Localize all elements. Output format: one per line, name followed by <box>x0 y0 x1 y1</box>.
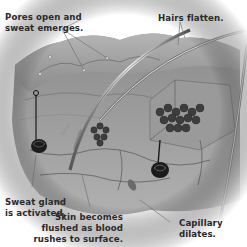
label-line: rushes to surface. <box>33 234 123 245</box>
label-line: Skin becomes <box>33 212 123 223</box>
label-line: Pores open and <box>5 12 83 23</box>
label-skin-flush: Skin becomes flushed as blood rushes to … <box>33 212 123 245</box>
label-line: Sweat gland <box>5 197 66 208</box>
label-pores: Pores open and sweat emerges. <box>5 12 83 34</box>
label-line: flushed as blood <box>33 223 123 234</box>
label-line: Hairs flatten. <box>158 13 224 24</box>
label-line: dilates. <box>179 229 223 240</box>
label-line: Capillary <box>179 218 223 229</box>
label-line: sweat emerges. <box>5 23 83 34</box>
label-hairs: Hairs flatten. <box>158 13 224 24</box>
label-capillary: Capillary dilates. <box>179 218 223 240</box>
